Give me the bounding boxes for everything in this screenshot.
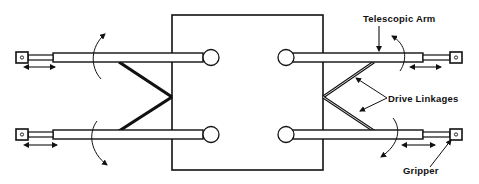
pivot-joint: [278, 127, 294, 143]
telescopic-arm-diagram: [0, 0, 479, 184]
gripper-box: [16, 52, 28, 63]
telescopic-rod: [28, 55, 53, 60]
arm-lower-right: [278, 118, 462, 157]
drive-linkages-leader-lower: [360, 98, 387, 111]
telescopic-arm-label: Telescopic Arm: [363, 13, 436, 24]
gripper-box: [450, 52, 462, 63]
pivot-joint: [203, 50, 219, 66]
drive-linkages-leader-upper: [356, 78, 387, 98]
gripper-label: Gripper: [403, 165, 439, 176]
gripper-box: [16, 129, 28, 140]
arm-upper-left: [16, 34, 219, 79]
telescopic-rod: [28, 132, 53, 137]
gripper-leader: [430, 140, 451, 167]
rotation-arrow-icon: [92, 121, 107, 165]
arm-lower-left: [16, 121, 219, 165]
pivot-joint: [203, 127, 219, 143]
drive-linkages-label: Drive Linkages: [388, 93, 458, 104]
drive-linkages-right: [323, 62, 374, 131]
telescopic-rod: [423, 55, 450, 60]
central-body: [172, 15, 323, 170]
telescopic-rod: [423, 132, 450, 137]
gripper-box: [450, 129, 462, 140]
pivot-joint: [278, 50, 294, 66]
drive-linkages-left: [119, 62, 172, 131]
